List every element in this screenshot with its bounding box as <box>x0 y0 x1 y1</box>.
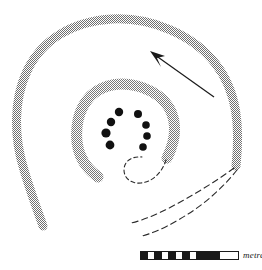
posthole <box>134 110 142 118</box>
scale-segment <box>190 252 197 259</box>
posthole <box>115 108 123 116</box>
conjectured-outer-ditch-lower <box>142 170 237 236</box>
scale-label: metres <box>243 251 262 260</box>
scale-bar-segments <box>140 251 239 260</box>
scale-segment <box>148 252 155 259</box>
posthole <box>107 118 115 126</box>
posthole <box>142 121 150 129</box>
posthole <box>143 132 151 140</box>
scale-block-open <box>220 252 238 259</box>
scale-segment <box>155 252 162 259</box>
north-arrow-head <box>150 51 165 67</box>
scale-segment <box>162 252 169 259</box>
scale-segment <box>169 252 176 259</box>
posthole <box>101 128 110 137</box>
site-plan-figure <box>0 0 262 270</box>
scale-segment <box>141 252 148 259</box>
posthole <box>106 141 115 150</box>
scale-bar: metres <box>140 251 262 260</box>
conjectured-inner-entrance <box>124 157 166 183</box>
outer-enclosure-bank <box>16 19 237 226</box>
posthole <box>139 143 147 151</box>
scale-segment <box>183 252 190 259</box>
scale-block-dark <box>197 252 220 259</box>
scale-segment <box>176 252 183 259</box>
conjectured-outer-ditch-upper <box>131 168 234 223</box>
posthole-group <box>101 108 150 151</box>
north-arrow-shaft <box>155 55 214 97</box>
